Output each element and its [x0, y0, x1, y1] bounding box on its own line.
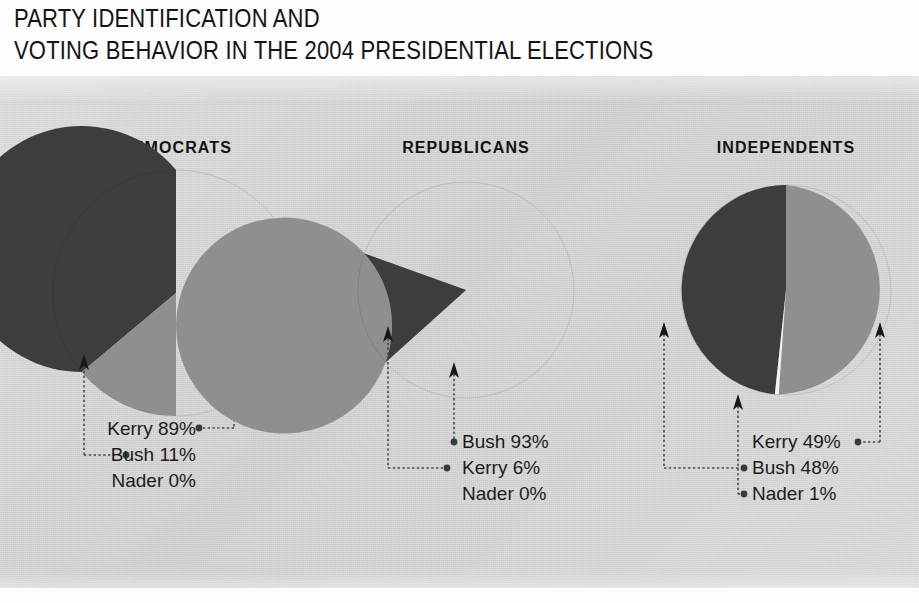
leader-dot-independents-nader: [741, 491, 748, 498]
chart-page: PARTY IDENTIFICATION AND VOTING BEHAVIOR…: [0, 0, 919, 603]
leader-dot-independents-bush: [741, 465, 748, 472]
label-independents-kerry: Kerry 49%: [752, 429, 850, 455]
label-independents-nader: Nader 1%: [752, 481, 850, 507]
title-line-2: VOTING BEHAVIOR IN THE 2004 PRESIDENTIAL…: [14, 34, 788, 66]
leader-lines-independents: [0, 76, 919, 588]
page-title: PARTY IDENTIFICATION AND VOTING BEHAVIOR…: [14, 2, 894, 66]
title-line-1: PARTY IDENTIFICATION AND: [14, 2, 788, 34]
chart-panel: DEMOCRATS REPUBLICANS INDEPENDENTS: [0, 76, 919, 588]
label-independents-bush: Bush 48%: [752, 455, 850, 481]
label-group-independents: Kerry 49% Bush 48% Nader 1%: [752, 429, 850, 507]
leader-dot-independents-kerry: [855, 439, 862, 446]
